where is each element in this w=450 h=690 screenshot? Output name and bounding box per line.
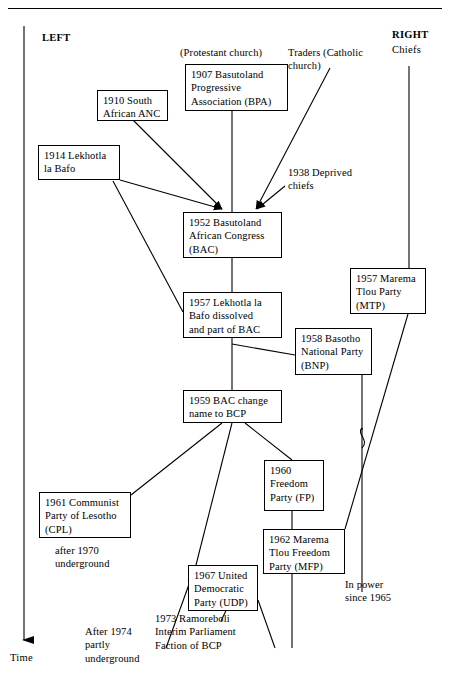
edge-llb-to-llb57	[113, 181, 183, 312]
annotation-ramoreboli-faction-1973: 1973 Ramoreboli Interim Parliament Facti…	[155, 612, 236, 652]
annotation-bnp-in-power-since-1965: In power since 1965	[345, 578, 391, 605]
annotation-deprived-chiefs-1938: 1938 Deprived chiefs	[288, 166, 352, 193]
source-protestant-church: (Protestant church)	[180, 46, 262, 59]
right-axis-sub-label: Chiefs	[392, 44, 421, 55]
node-basotho-national-party-1958[interactable]: 1958 Basotho National Party (BNP)	[295, 328, 372, 375]
party-genealogy-diagram: LEFT RIGHT Chiefs Time (Protestant churc…	[0, 0, 450, 690]
node-lekhotla-la-bafo-dissolved-1957[interactable]: 1957 Lekhotla la Bafo dissolved and part…	[183, 292, 282, 338]
right-axis-label: RIGHT	[392, 29, 429, 40]
edge-anc-to-bac	[133, 120, 222, 209]
node-marema-tlou-freedom-party-1962[interactable]: 1962 Marema Tlou Freedom Party (MFP)	[263, 529, 345, 574]
node-communist-party-of-lesotho-1961[interactable]: 1961 Communist Party of Lesotho (CPL)	[39, 492, 131, 538]
annotation-cpl-underground-after-1970: after 1970 underground	[55, 544, 110, 571]
edge-udp-to-ramoreboli	[258, 600, 275, 648]
time-axis-label: Time	[10, 652, 33, 663]
annotation-bcp-partly-underground-after-1974: After 1974 partly underground	[85, 625, 140, 665]
node-south-african-anc-1910[interactable]: 1910 South African ANC	[97, 90, 168, 121]
edge-deprived-chiefs-to-bac	[257, 186, 285, 209]
edge-bcp-to-fp	[245, 423, 292, 460]
node-bac-1952[interactable]: 1952 Basutoland African Congress (BAC)	[183, 212, 282, 258]
node-united-democratic-party-1967[interactable]: 1967 United Democratic Party (UDP)	[188, 565, 258, 611]
edge-trunk-to-bnp	[232, 344, 295, 355]
left-axis-label: LEFT	[42, 32, 71, 43]
edge-bcp-to-udp-trunk	[196, 423, 232, 565]
edge-bcp-to-cpl	[131, 423, 222, 495]
node-bpa-1907[interactable]: 1907 Basutoland Progressive Association …	[185, 64, 288, 111]
node-freedom-party-1960[interactable]: 1960 Freedom Party (FP)	[264, 460, 324, 511]
node-bcp-1959[interactable]: 1959 BAC change name to BCP	[183, 390, 282, 423]
edge-llb-to-bac	[120, 180, 222, 209]
source-traders-catholic-church: Traders (Catholic church)	[288, 46, 363, 73]
node-lekhotla-la-bafo-1914[interactable]: 1914 Lekhotla la Bafo	[38, 145, 120, 180]
node-marema-tlou-party-1957[interactable]: 1957 Marema Tlou Party (MTP)	[350, 268, 426, 314]
